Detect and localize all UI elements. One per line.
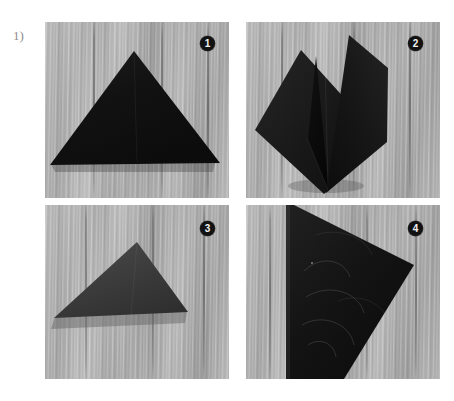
step-label: 1) [13, 29, 24, 42]
photo-panel-3[interactable]: 3 [45, 205, 229, 379]
panel-badge: 2 [408, 36, 423, 51]
panel-badge: 1 [200, 36, 215, 51]
panel-badge: 4 [408, 221, 423, 236]
panel-badge: 3 [200, 221, 215, 236]
figure-root: 1) [0, 0, 454, 401]
photo-panel-4[interactable]: 4 [246, 205, 440, 379]
photo-panel-2[interactable]: 2 [246, 22, 440, 198]
photo-panel-1[interactable]: 1 [45, 22, 229, 198]
